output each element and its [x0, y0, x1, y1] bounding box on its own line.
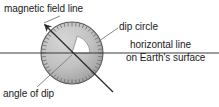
- label-dip-circle: dip circle: [119, 21, 158, 33]
- dip-circle-diagram: magnetic field line dip circle horizonta…: [0, 0, 219, 107]
- label-earth-surface: on Earth's surface: [126, 52, 205, 64]
- leader-dip-circle: [99, 28, 118, 41]
- label-magnetic-field-line: magnetic field line: [4, 3, 83, 15]
- label-horizontal-line: horizontal line: [130, 39, 191, 51]
- leader-magnetic-field-line: [44, 16, 60, 23]
- label-angle-of-dip: angle of dip: [3, 88, 54, 100]
